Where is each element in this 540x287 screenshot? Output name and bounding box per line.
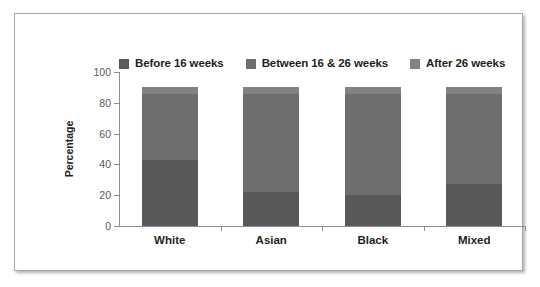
bar-segment [345,195,401,226]
x-axis-tick [525,226,526,231]
bar-segment [142,94,198,160]
y-axis-line [119,72,120,226]
y-axis-title-text: Percentage [63,121,75,178]
bar-segment [243,192,299,226]
x-axis-category-label: Mixed [424,234,526,246]
x-axis-tick [221,226,222,231]
y-axis-tick-label: 0 [105,220,111,232]
y-axis-tick [114,134,119,135]
y-axis-tick [114,164,119,165]
y-axis-tick-label: 20 [99,189,111,201]
legend-entry: Before 16 weeks [119,58,224,70]
legend-swatch-icon [410,59,420,69]
y-axis-tick-label: 40 [99,158,111,170]
y-axis-tick-label: 60 [99,128,111,140]
legend-swatch-icon [119,59,129,69]
bar-segment [243,87,299,93]
y-axis-tick [114,195,119,196]
y-axis-tick [114,103,119,104]
y-axis-tick-label: 100 [93,66,111,78]
legend-label: Before 16 weeks [135,58,224,70]
bar-segment [446,87,502,93]
x-axis-category-label: Black [322,234,424,246]
legend-swatch-icon [246,59,256,69]
chart-legend: Before 16 weeksBetween 16 & 26 weeksAfte… [119,58,527,70]
y-axis-tick-label: 80 [99,97,111,109]
bar-stack-mixed [446,72,502,226]
plot-area: 020406080100WhiteAsianBlackMixed [119,72,525,226]
x-axis-tick [322,226,323,231]
legend-entry: Between 16 & 26 weeks [246,58,388,70]
legend-label: After 26 weeks [426,58,505,70]
y-axis-tick [114,226,119,227]
chart-figure-frame: Before 16 weeksBetween 16 & 26 weeksAfte… [14,13,523,271]
bar-segment [142,87,198,93]
bar-segment [345,87,401,93]
bar-segment [345,94,401,196]
x-axis-category-label: White [119,234,221,246]
y-axis-title: Percentage [61,72,77,226]
bar-segment [142,160,198,226]
bar-segment [243,94,299,193]
x-axis-tick [424,226,425,231]
x-axis-category-label: Asian [221,234,323,246]
legend-label: Between 16 & 26 weeks [262,58,388,70]
y-axis-tick [114,72,119,73]
bar-segment [446,184,502,226]
bar-stack-black [345,72,401,226]
legend-entry: After 26 weeks [410,58,505,70]
bar-stack-white [142,72,198,226]
bar-segment [446,94,502,185]
bar-stack-asian [243,72,299,226]
